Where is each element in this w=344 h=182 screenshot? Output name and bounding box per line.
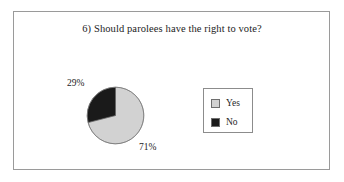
pie-label-yes-percent: 71% [139, 142, 156, 153]
legend: Yes No [203, 88, 253, 133]
legend-item-no: No [211, 115, 240, 130]
legend-label-no: No [226, 117, 238, 128]
pie-label-no-percent: 29% [67, 78, 84, 89]
figure-root: 6) Should parolees have the right to vot… [0, 0, 344, 182]
pie-chart-svg [86, 86, 145, 145]
legend-items: Yes No [211, 96, 240, 130]
pie-chart [86, 86, 145, 145]
legend-label-yes: Yes [226, 98, 240, 109]
legend-item-yes: Yes [211, 96, 240, 111]
legend-swatch-yes-icon [211, 99, 220, 108]
page-title: 6) Should parolees have the right to vot… [0, 22, 344, 35]
legend-swatch-no-icon [211, 118, 220, 127]
